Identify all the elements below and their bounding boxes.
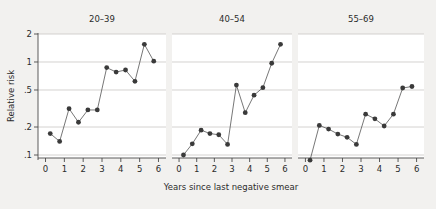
data-point-panel-2-x-2.25[interactable] [216,132,221,137]
data-point-panel-1-x-2.25[interactable] [85,108,90,113]
data-point-panel-3-x-3.75[interactable] [373,116,378,121]
y-tick-label-.2: .2 [24,122,32,132]
data-point-panel-3-x-4.75[interactable] [391,112,396,117]
data-point-panel-3-x-4.25[interactable] [382,124,387,129]
x-tick-label-0-panel-3: 0 [303,164,308,174]
panel-title-2: 40–54 [219,14,245,24]
data-point-panel-2-x-4.25[interactable] [252,93,257,98]
x-tick-label-1-panel-3: 1 [321,164,326,174]
panel-title-3: 55–69 [348,14,374,24]
x-tick-label-6-panel-2: 6 [282,164,287,174]
data-point-panel-3-x-0.75[interactable] [317,123,322,128]
data-point-panel-1-x-4.75[interactable] [133,79,138,84]
x-tick-label-2-panel-1: 2 [80,164,85,174]
data-point-panel-2-x-0.25[interactable] [181,153,186,158]
y-tick-label-2: 2 [27,29,32,39]
x-tick-label-4-panel-1: 4 [118,164,123,174]
data-point-panel-3-x-3.25[interactable] [363,112,368,117]
data-point-panel-1-x-3.75[interactable] [114,70,119,75]
x-tick-label-4-panel-3: 4 [377,164,382,174]
x-tick-label-2-panel-3: 2 [340,164,345,174]
data-point-panel-3-x-2.25[interactable] [345,135,350,140]
data-point-panel-2-x-5.25[interactable] [269,61,274,66]
x-tick-label-1-panel-1: 1 [62,164,67,174]
panel-background-2 [172,34,292,158]
y-tick-label-.5: .5 [24,85,32,95]
x-tick-label-3-panel-3: 3 [358,164,363,174]
data-point-panel-2-x-4.75[interactable] [260,85,265,90]
data-point-panel-1-x-3.25[interactable] [104,65,109,70]
data-point-panel-1-x-2.75[interactable] [95,108,100,113]
data-point-panel-2-x-3.25[interactable] [234,83,239,88]
data-point-panel-2-x-5.75[interactable] [278,42,283,47]
data-point-panel-2-x-0.75[interactable] [190,141,195,146]
x-tick-label-5-panel-1: 5 [137,164,142,174]
data-point-panel-1-x-4.25[interactable] [123,68,128,73]
x-tick-label-1-panel-2: 1 [194,164,199,174]
chart-svg: 21.5.2.1Relative risk20–39012345640–5401… [0,0,436,209]
data-point-panel-2-x-1.75[interactable] [208,131,213,136]
data-point-panel-3-x-1.25[interactable] [326,127,331,132]
y-axis-title: Relative risk [6,70,16,122]
data-point-panel-1-x-0.75[interactable] [57,139,62,144]
data-point-panel-3-x-5.75[interactable] [410,84,415,89]
data-point-panel-2-x-2.75[interactable] [225,142,230,147]
data-point-panel-3-x-5.25[interactable] [400,86,405,91]
x-tick-label-5-panel-2: 5 [265,164,270,174]
data-point-panel-1-x-0.25[interactable] [48,131,53,136]
panel-background-3 [298,34,424,158]
data-point-panel-3-x-1.75[interactable] [335,132,340,137]
data-point-panel-2-x-3.75[interactable] [243,110,248,115]
chart-plot-area: 21.5.2.1Relative risk20–39012345640–5401… [0,0,436,209]
x-tick-label-3-panel-1: 3 [99,164,104,174]
data-point-panel-1-x-1.25[interactable] [67,106,72,111]
y-tick-label-.1: .1 [24,150,32,160]
data-point-panel-2-x-1.25[interactable] [199,128,204,133]
x-tick-label-4-panel-2: 4 [247,164,252,174]
data-point-panel-1-x-5.25[interactable] [142,42,147,47]
data-point-panel-3-x-2.75[interactable] [354,142,359,147]
data-point-panel-3-x-0.25[interactable] [308,158,313,163]
x-tick-label-6-panel-1: 6 [156,164,161,174]
x-tick-label-5-panel-3: 5 [395,164,400,174]
data-point-panel-1-x-5.75[interactable] [151,59,156,64]
y-tick-label-1: 1 [27,57,32,67]
x-tick-label-0-panel-2: 0 [176,164,181,174]
panel-title-1: 20–39 [89,14,115,24]
figure-container: 21.5.2.1Relative risk20–39012345640–5401… [0,0,436,209]
x-tick-label-0-panel-1: 0 [43,164,48,174]
data-point-panel-1-x-1.75[interactable] [76,120,81,125]
x-tick-label-6-panel-3: 6 [414,164,419,174]
x-axis-title: Years since last negative smear [163,182,299,192]
x-tick-label-2-panel-2: 2 [212,164,217,174]
x-tick-label-3-panel-2: 3 [229,164,234,174]
